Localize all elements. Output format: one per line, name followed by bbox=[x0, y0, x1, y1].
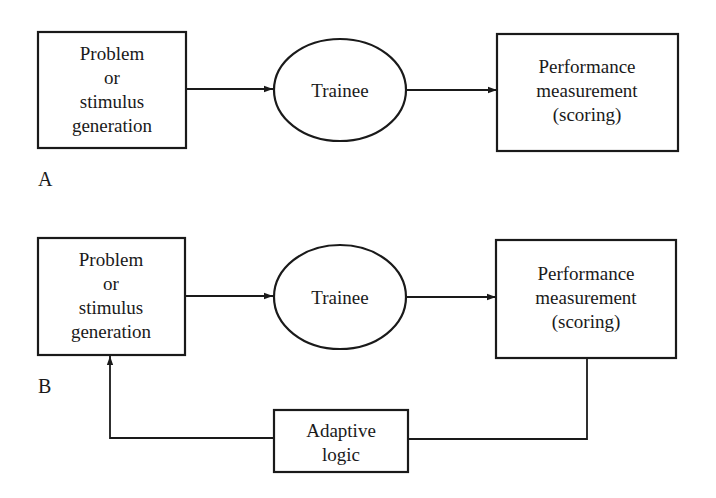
panel-b-trainee-label: Trainee bbox=[311, 287, 368, 308]
panel-a: Problem or stimulus generation Trainee P… bbox=[38, 32, 678, 190]
panel-b-arrow-adaptive-to-problem bbox=[110, 356, 274, 438]
panel-b-problem-line1: Problem bbox=[79, 249, 144, 270]
panel-a-label: A bbox=[38, 168, 53, 190]
panel-b-performance-line1: Performance bbox=[537, 263, 634, 284]
panel-b-adaptive-node: Adaptive logic bbox=[274, 410, 408, 472]
panel-a-trainee-label: Trainee bbox=[311, 80, 368, 101]
panel-a-problem-line4: generation bbox=[72, 115, 153, 136]
panel-b-label: B bbox=[38, 375, 51, 397]
panel-b: Problem or stimulus generation Trainee P… bbox=[38, 238, 676, 472]
panel-b-adaptive-line1: Adaptive bbox=[306, 420, 376, 441]
panel-a-performance-line2: measurement bbox=[536, 80, 638, 101]
panel-a-problem-node: Problem or stimulus generation bbox=[38, 32, 186, 148]
panel-b-problem-line4: generation bbox=[71, 321, 152, 342]
panel-a-problem-line1: Problem bbox=[80, 43, 145, 64]
panel-b-performance-line3: (scoring) bbox=[552, 311, 621, 333]
panel-b-adaptive-line2: logic bbox=[322, 444, 360, 465]
panel-b-performance-line2: measurement bbox=[535, 287, 637, 308]
panel-a-performance-line3: (scoring) bbox=[553, 104, 622, 126]
panel-a-trainee-node: Trainee bbox=[274, 39, 406, 141]
panel-b-trainee-node: Trainee bbox=[274, 245, 406, 349]
panel-a-performance-node: Performance measurement (scoring) bbox=[497, 34, 678, 151]
training-system-diagram: Problem or stimulus generation Trainee P… bbox=[0, 0, 716, 498]
panel-b-problem-line3: stimulus bbox=[79, 297, 143, 318]
panel-a-performance-line1: Performance bbox=[538, 56, 635, 77]
panel-a-problem-line3: stimulus bbox=[80, 91, 144, 112]
panel-b-problem-node: Problem or stimulus generation bbox=[38, 238, 185, 355]
panel-b-problem-line2: or bbox=[103, 273, 120, 294]
panel-a-problem-line2: or bbox=[104, 67, 121, 88]
panel-b-connector-performance-to-adaptive bbox=[408, 358, 587, 439]
panel-b-performance-node: Performance measurement (scoring) bbox=[496, 240, 676, 358]
